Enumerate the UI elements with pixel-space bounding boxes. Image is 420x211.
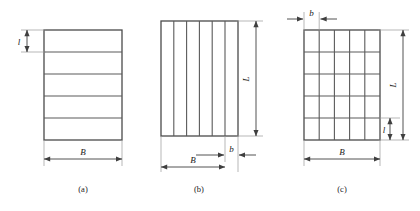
- panel-a-label-l: l: [18, 37, 21, 47]
- panel-b-label-L: L: [241, 76, 251, 82]
- panel-b-label-B: B: [190, 155, 196, 165]
- panel-c-label-L: L: [388, 82, 398, 88]
- panel-a-strip-dividers: [44, 52, 122, 118]
- panel-a-outer-rect: [44, 30, 122, 140]
- panel-c-grid-columns: [319, 30, 365, 140]
- panel-c-caption: (c): [337, 184, 347, 194]
- panel-c-label-B: B: [339, 147, 345, 157]
- panel-a-caption: (a): [78, 184, 88, 194]
- panel-c: b L l B (c): [287, 8, 409, 194]
- panel-b: L b B (b): [161, 21, 263, 194]
- panel-c-label-b: b: [309, 8, 314, 18]
- figure-footnote: [0, 204, 420, 211]
- panel-b-label-b: b: [229, 144, 234, 154]
- figure-canvas: l B (a): [0, 0, 420, 211]
- panel-a-l-extension-lines: [21, 30, 46, 52]
- panel-c-label-l: l: [383, 125, 386, 135]
- panel-a-label-B: B: [80, 147, 86, 157]
- figure-root: l B (a): [0, 0, 420, 211]
- panel-b-strip-dividers: [174, 21, 225, 136]
- panel-b-caption: (b): [194, 184, 204, 194]
- panel-a: l B (a): [18, 30, 122, 194]
- panel-c-outer-rect: [304, 30, 380, 140]
- panel-c-grid-rows: [304, 52, 380, 118]
